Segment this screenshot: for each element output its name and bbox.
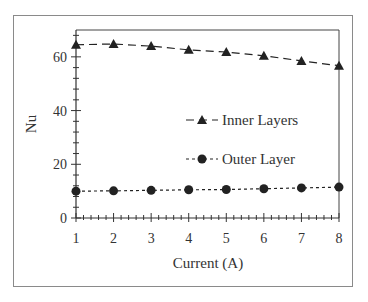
x-tick-label: 1 xyxy=(73,231,80,246)
legend-item: Outer Layer xyxy=(186,151,295,167)
circle-marker-icon xyxy=(198,155,207,164)
series-layer xyxy=(71,39,344,196)
legend-label: Outer Layer xyxy=(222,151,295,167)
y-axis-title: Nu xyxy=(23,114,39,133)
y-tick-label: 60 xyxy=(53,50,67,65)
chart-plot: 020406012345678 Inner LayersOuter Layer … xyxy=(0,0,368,302)
x-tick-label: 2 xyxy=(110,231,117,246)
series-inner-layers xyxy=(71,39,344,70)
circle-marker-icon xyxy=(72,187,81,196)
legend: Inner LayersOuter Layer xyxy=(186,112,298,167)
legend-label: Inner Layers xyxy=(222,112,298,128)
circle-marker-icon xyxy=(109,186,118,195)
y-tick-label: 0 xyxy=(60,211,67,226)
circle-marker-icon xyxy=(259,184,268,193)
x-tick-label: 3 xyxy=(148,231,155,246)
circle-marker-icon xyxy=(184,185,193,194)
x-tick-label: 7 xyxy=(298,231,305,246)
x-tick-label: 6 xyxy=(260,231,267,246)
circle-marker-icon xyxy=(147,186,156,195)
x-tick-label: 8 xyxy=(336,231,343,246)
circle-marker-icon xyxy=(335,183,344,192)
x-axis-title: Current (A) xyxy=(173,255,243,272)
y-tick-label: 40 xyxy=(53,104,67,119)
triangle-marker-icon xyxy=(109,39,119,48)
x-tick-label: 5 xyxy=(223,231,230,246)
series-outer-layer xyxy=(72,183,344,196)
circle-marker-icon xyxy=(297,183,306,192)
legend-item: Inner Layers xyxy=(186,112,298,128)
circle-marker-icon xyxy=(222,185,231,194)
x-tick-label: 4 xyxy=(185,231,192,246)
y-tick-label: 20 xyxy=(53,157,67,172)
